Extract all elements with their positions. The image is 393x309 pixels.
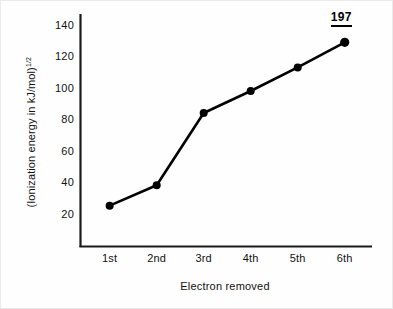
x-axis-tick-label: 5th bbox=[276, 252, 320, 264]
x-axis-tick-label: 6th bbox=[323, 252, 367, 264]
value-annotation-197: 197 bbox=[331, 11, 352, 27]
y-axis-title: (Ionization energy in kJ/mol)1/2 bbox=[25, 32, 38, 232]
y-axis-tick-label: 80 bbox=[36, 113, 74, 125]
y-axis-title-text: (Ionization energy in kJ/mol) bbox=[25, 67, 37, 207]
data-point bbox=[153, 181, 161, 189]
y-axis-tick-label: 20 bbox=[36, 208, 74, 220]
x-axis-tick-label: 3rd bbox=[182, 252, 226, 264]
y-axis-title-exponent: 1/2 bbox=[25, 57, 32, 67]
data-point-markers bbox=[106, 38, 350, 210]
data-point bbox=[106, 202, 114, 210]
data-point bbox=[294, 63, 302, 71]
data-point bbox=[200, 109, 208, 117]
data-line-series bbox=[110, 42, 345, 205]
data-point bbox=[340, 38, 349, 47]
axis-lines bbox=[80, 14, 373, 247]
x-axis-title: Electron removed bbox=[80, 280, 370, 292]
x-axis-tick-label: 1st bbox=[88, 252, 132, 264]
y-axis-tick-label: 60 bbox=[36, 145, 74, 157]
x-axis-tick-label: 2nd bbox=[135, 252, 179, 264]
x-axis-tick-label: 4th bbox=[229, 252, 273, 264]
ionization-energy-chart-figure: 20406080100120140 1st2nd3rd4th5th6th (Io… bbox=[0, 0, 393, 309]
data-point bbox=[247, 87, 255, 95]
y-axis-tick-label: 120 bbox=[36, 50, 74, 62]
y-axis-tick-label: 40 bbox=[36, 176, 74, 188]
y-axis-tick-label: 140 bbox=[36, 19, 74, 31]
y-axis-tick-label: 100 bbox=[36, 82, 74, 94]
